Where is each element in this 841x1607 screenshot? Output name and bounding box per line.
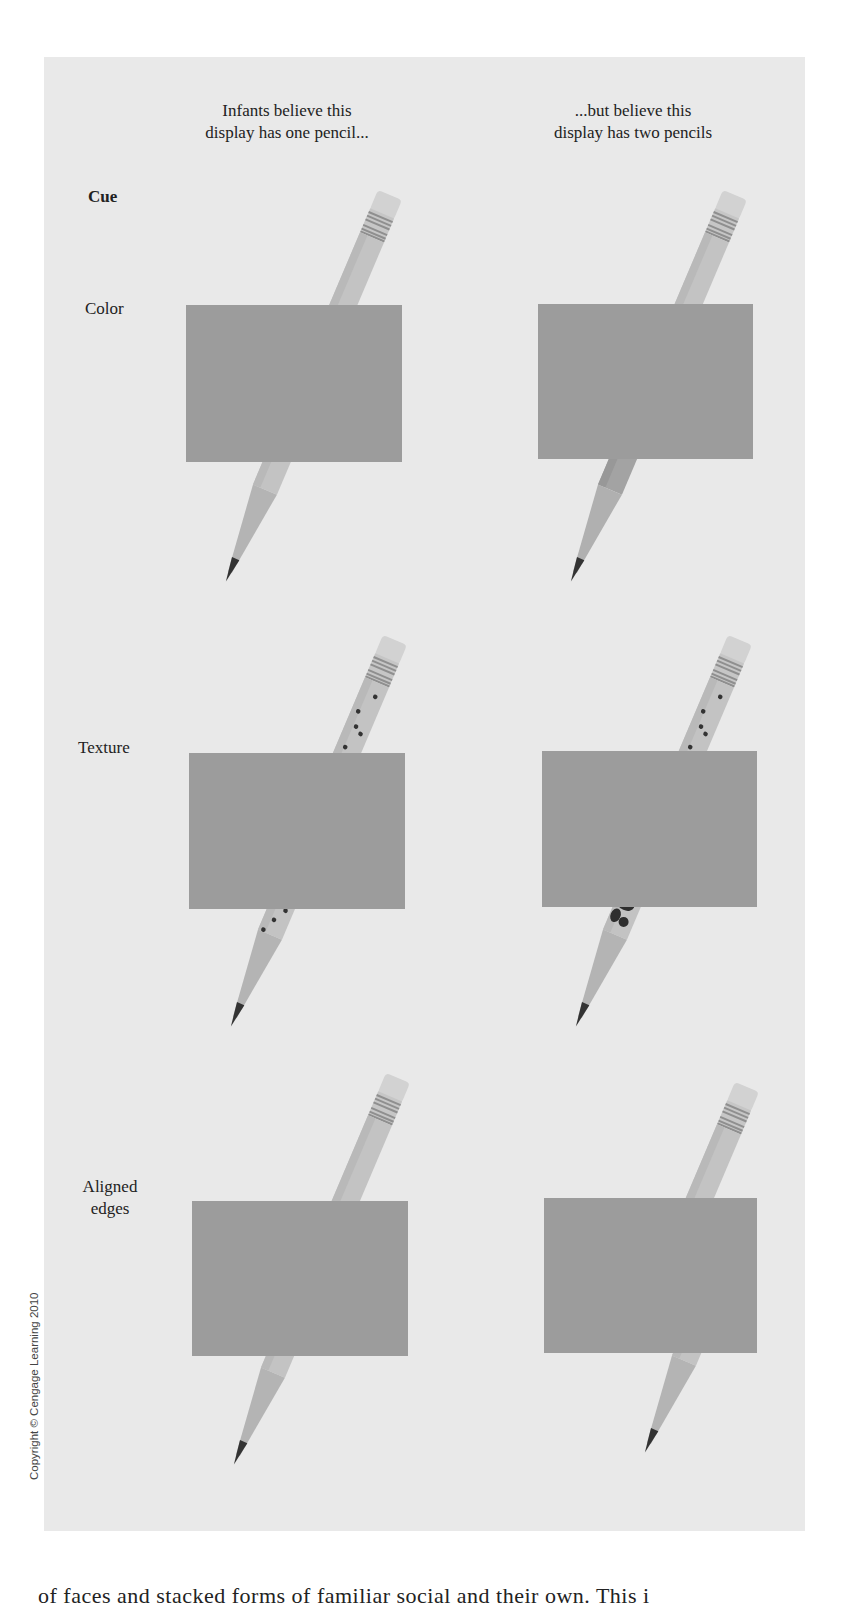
occluder-box (542, 751, 757, 907)
occluder-box (186, 305, 402, 462)
body-text-fragment: of faces and stacked forms of familiar s… (38, 1583, 650, 1607)
occluder-box (538, 304, 753, 459)
occluder-box (544, 1198, 757, 1353)
occluder-box (192, 1201, 408, 1356)
occluder-box (189, 753, 405, 909)
